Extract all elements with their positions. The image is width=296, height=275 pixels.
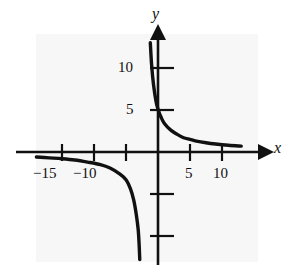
x-tick-label-5: 5 [185,166,193,181]
curve-branch-right [150,43,241,146]
x-tick-label-10: 10 [213,166,228,181]
y-tick-label-5: 5 [126,102,134,117]
x-tick-label--10: −10 [73,166,96,181]
y-tick-label-10: 10 [118,60,133,75]
graph-figure: 10 5 −15 −10 5 10 x y [0,0,296,275]
y-axis-label: y [152,6,159,22]
x-axis-arrowhead [258,144,274,160]
graph-canvas [0,0,296,275]
x-tick-label--15: −15 [33,166,56,181]
x-axis-label: x [274,140,281,156]
y-axis-arrowhead [150,24,166,40]
